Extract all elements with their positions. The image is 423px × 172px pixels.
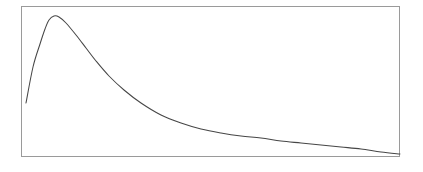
data-series-curve bbox=[26, 16, 400, 154]
chart-figure bbox=[0, 0, 423, 172]
curve-canvas bbox=[0, 0, 423, 172]
